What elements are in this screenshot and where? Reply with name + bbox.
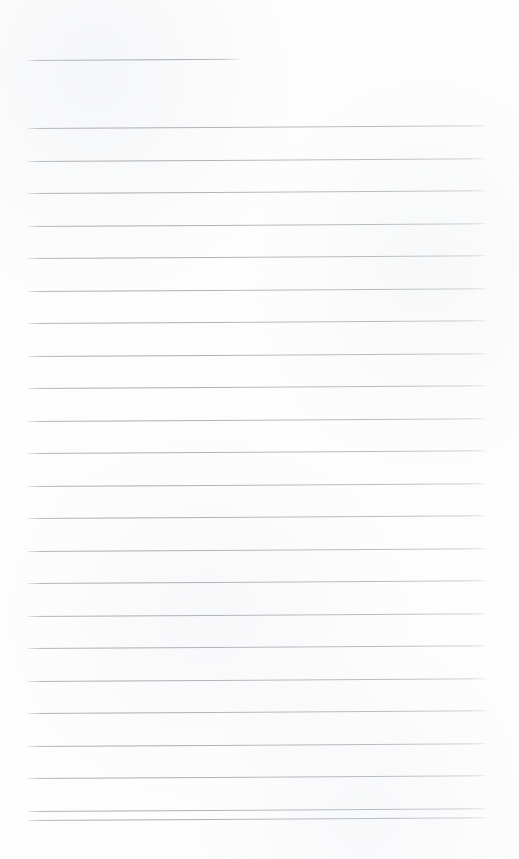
ruled-line (28, 613, 486, 617)
ruled-line (28, 678, 486, 682)
ruled-line (28, 775, 486, 779)
ruled-line (28, 418, 486, 422)
ruled-line (28, 710, 486, 714)
ruled-line (28, 483, 486, 487)
ruled-line (28, 158, 486, 162)
ruled-line (28, 125, 486, 129)
scanned-page (0, 0, 519, 859)
ruled-line (28, 223, 486, 227)
ruled-line (28, 808, 486, 812)
ruled-line (28, 580, 486, 584)
ruled-line (28, 288, 486, 292)
ruled-line (28, 320, 486, 324)
ruled-line (28, 743, 486, 747)
ruled-line (28, 353, 486, 357)
ruled-line (28, 59, 241, 61)
ruled-line (28, 255, 486, 259)
ruled-line (28, 515, 486, 519)
ruled-line (28, 385, 486, 389)
ruled-line (28, 548, 486, 552)
ruled-line (28, 817, 486, 821)
ruled-lines-container (0, 0, 519, 859)
ruled-line (28, 190, 486, 194)
ruled-line (28, 450, 486, 454)
ruled-line (28, 645, 486, 649)
